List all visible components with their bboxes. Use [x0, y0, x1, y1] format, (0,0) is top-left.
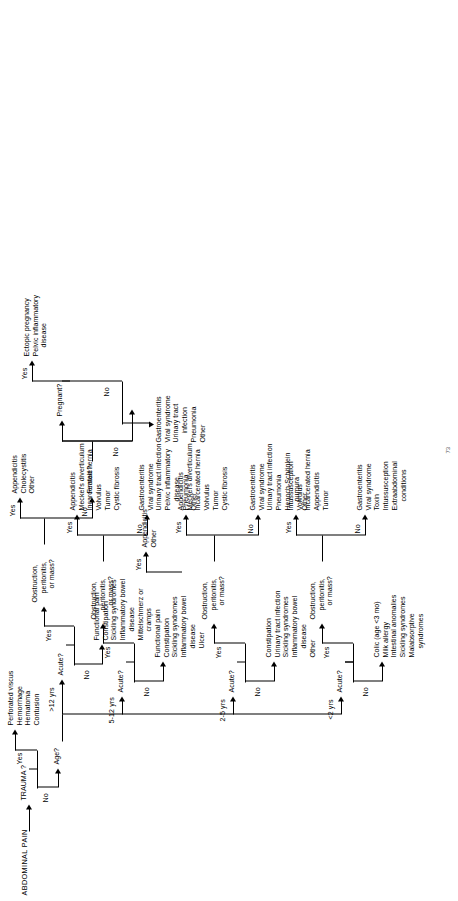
- root-connector: [29, 808, 30, 831]
- decision-female[interactable]: Female?: [86, 465, 95, 493]
- age2-5-yes-line: [214, 643, 245, 644]
- obstr-gt12-stem: [44, 518, 45, 544]
- edge-obstr-gt12-no: No: [81, 507, 90, 516]
- branch-5-12-arm: [122, 701, 123, 715]
- pregnant-no-arm: [122, 381, 123, 424]
- obstr-lt2-no-arrow-icon: [362, 514, 368, 519]
- decision-age[interactable]: Age?: [53, 747, 62, 764]
- trauma-yes-arrow-icon: [12, 729, 18, 734]
- female-stem: [92, 441, 93, 461]
- trauma-stem: [29, 768, 37, 769]
- branch-5-12-arrow-icon: [119, 696, 125, 701]
- branch-lt2-arm: [341, 701, 342, 715]
- decision-trauma[interactable]: TRAUMA ?: [20, 765, 29, 800]
- lt2-no-line: [353, 681, 382, 682]
- edge-female-no: No: [112, 447, 121, 456]
- acute-5-12-stem: [126, 662, 134, 663]
- age2-5-yes-arm: [214, 628, 215, 644]
- obstr-gt12-split-bar: [20, 518, 92, 519]
- obstr-lt2-no-arm: [365, 519, 366, 536]
- rotated-diagram-canvas: ABDOMINAL PAIN TRAUMA ? Yes Perforated v…: [0, 0, 458, 901]
- acute-gt12-stem: [66, 645, 74, 646]
- edge-lt2-no: No: [362, 687, 371, 696]
- obstr-2-5-stem: [214, 535, 215, 561]
- edge-age-gt12: >12 yrs: [48, 687, 57, 711]
- obstr-2-5-no-arm: [258, 519, 259, 536]
- edge-age-5-12: 5-12 yrs: [108, 697, 117, 723]
- gt12-no-arm: [102, 649, 103, 665]
- decision-pregnant[interactable]: Pregnant?: [56, 383, 65, 416]
- age5-12-no-arrow-icon: [160, 661, 166, 666]
- female-yes-arrow-icon: [59, 420, 65, 425]
- pregnant-no-down: [122, 423, 150, 424]
- edge-obstr-lt2-no: No: [354, 524, 363, 533]
- outcome-2-5-obstruction-no: Gastroenteritis Viral syndrome Urinary t…: [249, 443, 310, 510]
- obstr-gt12-yes-arrow-icon: [17, 497, 23, 502]
- edge-obstr-2-5-no: No: [247, 524, 256, 533]
- pregnant-yes-arrow-icon: [29, 360, 35, 365]
- decision-acute-2-5[interactable]: Acute?: [228, 670, 237, 692]
- decision-acute-gt12[interactable]: Acute?: [57, 653, 66, 675]
- female-no-arm: [132, 414, 133, 442]
- gt12-appendicitis-arm: [146, 556, 147, 573]
- female-no-arrow-icon: [129, 409, 135, 414]
- outcome-pregnant-yes: Ectopic pregnancy Pelvic inflammatory di…: [23, 295, 49, 357]
- lt2-yes-arm: [322, 628, 323, 644]
- decision-acute-5-12[interactable]: Acute?: [117, 670, 126, 692]
- edge-obstr-2-5-yes: Yes: [175, 521, 184, 533]
- obstr-5-12-split-bar: [77, 535, 147, 536]
- figure-page: ABDOMINAL PAIN TRAUMA ? Yes Perforated v…: [0, 0, 458, 901]
- lt2-yes-arrow-icon: [319, 623, 325, 628]
- decision-obstruction-gt12[interactable]: Obstruction, peritonitis, or mass?: [31, 559, 57, 602]
- acute-lt2-split-bar: [353, 643, 354, 682]
- trauma-no-arm: [58, 773, 59, 788]
- edge-obstr-gt12-yes: Yes: [9, 504, 18, 516]
- gt12-yes-arrow-icon: [41, 606, 47, 611]
- obstr-2-5-yes-arm: [186, 519, 187, 536]
- branch-2-5-arm: [233, 701, 234, 715]
- edge-obstr-lt2-yes: Yes: [285, 521, 294, 533]
- obstr-lt2-yes-arrow-icon: [293, 514, 299, 519]
- outcome-gt12-appendicitis: Appendicitis Other: [141, 509, 158, 547]
- age5-12-yes-line: [103, 643, 134, 644]
- decision-acute-lt2[interactable]: Acute?: [336, 670, 345, 692]
- edge-age-2-5: 2-5 yrs: [219, 699, 228, 721]
- acute-gt12-split-bar: [74, 626, 75, 665]
- obstr-2-5-split-bar: [186, 535, 258, 536]
- age5-12-no-arm: [163, 666, 164, 682]
- pregnant-yes-arm: [32, 365, 33, 382]
- obstr-lt2-split-bar: [296, 535, 365, 536]
- root-arrow-icon: [26, 804, 32, 809]
- gt12-no-line: [74, 664, 102, 665]
- gt12-appendicitis-line: [146, 572, 170, 573]
- page-number: 73: [445, 446, 451, 453]
- obstr-5-12-stem: [103, 535, 104, 561]
- trauma-no-line: [37, 787, 58, 788]
- acute-lt2-stem: [345, 662, 353, 663]
- gt12-yes-arm: [44, 611, 45, 627]
- obstr-gt12-no-arrow-icon: [89, 497, 95, 502]
- edge-age-lt2: <2 yrs: [327, 699, 336, 719]
- obstr-gt12-no-arm: [92, 502, 93, 519]
- edge-obstr-5-12-yes: Yes: [66, 521, 75, 533]
- lt2-yes-line: [322, 643, 353, 644]
- age5-12-no-line: [134, 681, 163, 682]
- trauma-no-arrow-icon: [55, 768, 61, 773]
- flowchart: ABDOMINAL PAIN TRAUMA ? Yes Perforated v…: [0, 0, 458, 901]
- outcome-lt2-obstruction-no: Gastroenteritis Viral syndrome Toxin Int…: [356, 461, 408, 510]
- gt12-appendicitis-tail: [170, 572, 182, 573]
- obstr-5-12-yes-arm: [77, 519, 78, 536]
- branch-lt2-arrow-icon: [338, 696, 344, 701]
- pregnant-split-bar: [32, 381, 122, 382]
- obstr-2-5-yes-arrow-icon: [183, 514, 189, 519]
- root-title: ABDOMINAL PAIN: [20, 829, 29, 895]
- outcome-trauma-yes: Perforated viscus Hemorrhage Hematoma Co…: [7, 670, 42, 725]
- edge-gt12-yes: Yes: [45, 629, 54, 641]
- outcome-lt2-nonacute: Colic (age <3 mo) Milk allergy Intestina…: [373, 594, 425, 657]
- age2-5-no-arrow-icon: [271, 661, 277, 666]
- acute-2-5-stem: [237, 662, 245, 663]
- lt2-no-arrow-icon: [379, 661, 385, 666]
- outcome-5-12-obstruction-no: Gastroenteritis Viral syndrome Urinary t…: [138, 443, 199, 510]
- obstr-gt12-yes-arm: [20, 502, 21, 519]
- edge-pregnant-yes: Yes: [21, 367, 30, 379]
